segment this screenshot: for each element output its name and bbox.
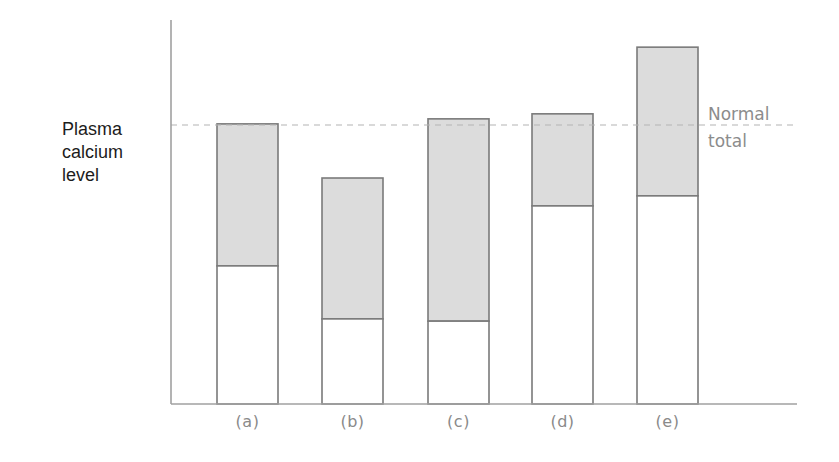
x-tick-label: (e) bbox=[637, 412, 698, 431]
x-tick-label: (b) bbox=[322, 412, 383, 431]
bar-upper-segment bbox=[217, 124, 278, 266]
bar-upper-segment bbox=[322, 178, 383, 319]
bar-lower-segment bbox=[637, 196, 698, 404]
reference-line-label: Normal total bbox=[708, 101, 770, 155]
bars-group bbox=[217, 47, 698, 404]
bar-upper-segment bbox=[532, 114, 593, 206]
bar-lower-segment bbox=[532, 206, 593, 404]
bar-upper-segment bbox=[428, 119, 489, 321]
x-tick-label: (d) bbox=[532, 412, 593, 431]
bar-lower-segment bbox=[322, 319, 383, 404]
bar-lower-segment bbox=[217, 266, 278, 404]
x-tick-label: (c) bbox=[428, 412, 489, 431]
bar-lower-segment bbox=[428, 321, 489, 404]
x-tick-label: (a) bbox=[217, 412, 278, 431]
chart-plot-area bbox=[0, 0, 839, 462]
bar-upper-segment bbox=[637, 47, 698, 196]
